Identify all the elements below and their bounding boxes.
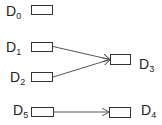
node-label-d0: D0 [6, 4, 21, 23]
node-box-d3 [110, 54, 131, 65]
node-box-d5 [31, 107, 54, 117]
node-label-d2: D2 [10, 70, 25, 89]
node-label-d5: D5 [13, 103, 28, 122]
node-box-d0 [31, 5, 53, 15]
node-label-d4: D4 [141, 103, 156, 122]
node-box-d1 [31, 42, 53, 52]
node-label-d3: D3 [139, 57, 154, 76]
node-label-d1: D1 [6, 40, 21, 59]
edge-d1-d3 [53, 47, 110, 60]
node-box-d4 [109, 107, 131, 118]
edge-d2-d3 [53, 60, 110, 78]
node-box-d2 [31, 72, 53, 82]
